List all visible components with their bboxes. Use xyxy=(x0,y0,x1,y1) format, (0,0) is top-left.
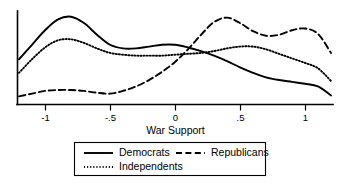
series-line-republicans xyxy=(19,18,331,97)
x-tick-label: 0 xyxy=(173,112,178,123)
x-tick-label: .5 xyxy=(237,112,245,123)
x-axis-title: War Support xyxy=(146,124,205,136)
data-curves xyxy=(19,17,331,97)
chart-legend: Democrats Republicans Independents xyxy=(75,143,269,176)
x-tick-label: -.5 xyxy=(105,112,116,123)
x-axis-ticks xyxy=(46,105,306,111)
x-tick-label: -1 xyxy=(41,112,49,123)
x-tick-label: 1 xyxy=(303,112,308,123)
legend-label-republicans: Republicans xyxy=(211,146,269,158)
x-axis-tick-labels: -1 -.5 0 .5 1 xyxy=(41,112,308,123)
legend-label-democrats: Democrats xyxy=(119,146,170,158)
chart-canvas: -1 -.5 0 .5 1 War Support Democrats Repu… xyxy=(0,0,343,183)
density-plot-figure: -1 -.5 0 .5 1 War Support Democrats Repu… xyxy=(0,0,343,183)
legend-label-independents: Independents xyxy=(119,160,183,172)
